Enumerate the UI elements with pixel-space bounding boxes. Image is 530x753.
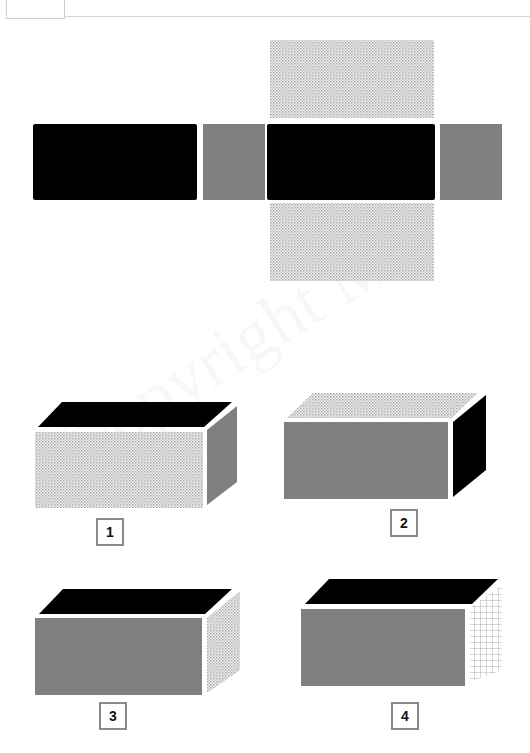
option-4-cuboid[interactable] (301, 579, 502, 686)
net-face-top-flap (270, 40, 434, 118)
option-1-front-face (35, 432, 203, 508)
option-4-top-face (305, 579, 498, 604)
option-4-label[interactable]: 4 (391, 702, 419, 730)
option-1-top-face (38, 402, 232, 427)
option-1-cuboid[interactable] (35, 402, 237, 508)
option-3-label[interactable]: 3 (99, 702, 127, 730)
option-3-front-face (35, 618, 202, 695)
option-2-label[interactable]: 2 (390, 509, 418, 537)
option-2-cuboid[interactable] (284, 393, 486, 499)
net-face-right-end (440, 124, 502, 200)
cuboid-net (33, 40, 502, 281)
option-2-front-face (284, 422, 448, 499)
net-face-left-long (33, 124, 197, 200)
figure-canvas (0, 0, 530, 753)
option-3-cuboid[interactable] (35, 589, 240, 695)
option-4-front-face (301, 609, 465, 686)
option-1-side-face (207, 406, 237, 505)
net-face-bottom-flap (270, 203, 434, 281)
option-3-top-face (39, 589, 232, 614)
option-2-top-face (287, 393, 478, 418)
option-1-label[interactable]: 1 (96, 518, 124, 546)
net-face-left-end (203, 124, 265, 200)
net-face-center (267, 124, 435, 200)
